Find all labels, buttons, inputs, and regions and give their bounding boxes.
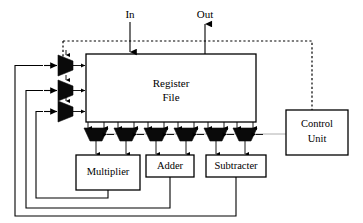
datapath-diagram: Register File In Out [0,0,363,223]
input-mux-1 [44,50,85,76]
subtracter-label: Subtracter [214,160,258,171]
control-unit-label-line2: Unit [308,133,327,144]
output-mux-3 [144,122,174,154]
adder-block: Adder [146,155,194,177]
register-file-block: Register File [86,54,256,122]
in-port: In [125,8,135,52]
subtracter-block: Subtracter [206,155,266,177]
control-unit-block: Control Unit [286,110,348,155]
output-mux-1 [84,122,114,154]
multiplier-label: Multiplier [87,166,130,177]
input-mux-2 [44,75,85,101]
in-port-label: In [125,8,135,20]
diagram-canvas: Register File In Out [0,0,363,223]
input-mux-3 [44,96,85,122]
adder-label: Adder [157,160,184,171]
multiplier-block: Multiplier [76,155,140,190]
control-unit-label-line1: Control [301,118,333,129]
out-port: Out [197,8,214,54]
output-mux-4 [174,122,204,154]
register-file-label-line1: Register [153,77,190,89]
register-file-label-line2: File [162,91,179,103]
out-port-label: Out [197,8,214,20]
output-mux-6 [233,122,263,154]
output-mux-5 [204,122,234,154]
output-mux-2 [114,122,144,154]
